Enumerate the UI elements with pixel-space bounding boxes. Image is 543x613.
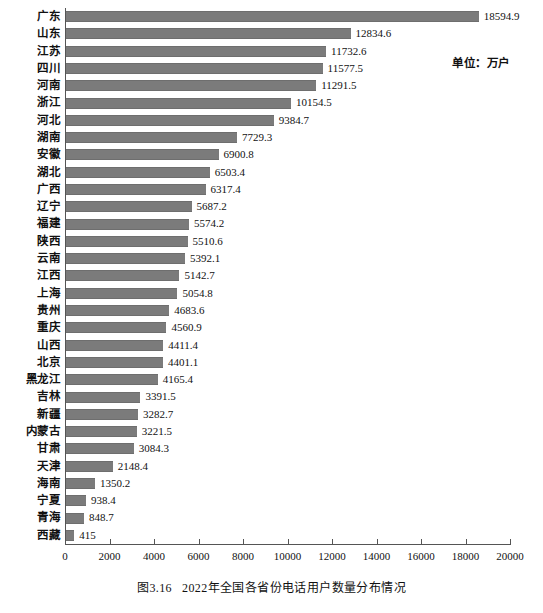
bar <box>65 374 158 385</box>
bar-value-label: 6503.4 <box>215 164 245 181</box>
bar-value-label: 5510.6 <box>193 233 223 250</box>
category-label: 河南 <box>37 77 60 94</box>
x-axis-tick <box>288 539 289 545</box>
category-label: 江苏 <box>37 43 60 60</box>
x-axis-tick-label: 12000 <box>318 549 346 563</box>
bar-value-label: 1350.2 <box>100 475 130 492</box>
bar <box>65 357 163 368</box>
category-label: 四川 <box>37 60 60 77</box>
category-label: 广东 <box>37 8 60 25</box>
bar <box>65 28 351 39</box>
category-label: 辽宁 <box>37 198 60 215</box>
bar <box>65 149 219 160</box>
category-label: 湖北 <box>37 164 60 181</box>
chart-row: 云南5392.1 <box>65 250 510 267</box>
bar <box>65 236 188 247</box>
x-axis-tick-label: 6000 <box>188 549 210 563</box>
category-label: 贵州 <box>37 302 60 319</box>
category-label: 安徽 <box>37 146 60 163</box>
chart-row: 上海5054.8 <box>65 285 510 302</box>
bar <box>65 253 185 264</box>
category-label: 新疆 <box>37 406 60 423</box>
bar <box>65 219 189 230</box>
bar-value-label: 3084.3 <box>139 440 169 457</box>
bar <box>65 201 192 212</box>
chart-row: 内蒙古3221.5 <box>65 423 510 440</box>
bar-value-label: 2148.4 <box>118 458 148 475</box>
x-axis-tick <box>332 539 333 545</box>
bar-value-label: 9384.7 <box>279 112 309 129</box>
category-label: 吉林 <box>37 388 60 405</box>
chart-row: 四川11577.5 <box>65 60 510 77</box>
category-label: 山西 <box>37 337 60 354</box>
bar <box>65 426 137 437</box>
bar <box>65 409 138 420</box>
x-axis-tick <box>243 539 244 545</box>
category-label: 内蒙古 <box>26 423 61 440</box>
category-label: 西藏 <box>37 527 60 544</box>
x-axis-tick <box>421 539 422 545</box>
bar <box>65 305 169 316</box>
bar <box>65 184 206 195</box>
bar <box>65 288 177 299</box>
bar-value-label: 5142.7 <box>184 267 214 284</box>
category-label: 宁夏 <box>37 492 60 509</box>
bar <box>65 461 113 472</box>
category-label: 甘肃 <box>37 440 60 457</box>
x-axis-tick-label: 2000 <box>99 549 121 563</box>
bar <box>65 340 163 351</box>
bar <box>65 478 95 489</box>
chart-row: 重庆4560.9 <box>65 319 510 336</box>
bar-value-label: 4165.4 <box>163 371 193 388</box>
x-axis-tick-label: 4000 <box>143 549 165 563</box>
bar-value-label: 5054.8 <box>182 285 212 302</box>
bar <box>65 11 479 22</box>
bar <box>65 63 323 74</box>
bar <box>65 495 86 506</box>
x-axis-tick-label: 14000 <box>363 549 391 563</box>
bar <box>65 443 134 454</box>
bar-value-label: 5392.1 <box>190 250 220 267</box>
category-label: 云南 <box>37 250 60 267</box>
category-label: 江西 <box>37 267 60 284</box>
chart-row: 天津2148.4 <box>65 458 510 475</box>
category-label: 海南 <box>37 475 60 492</box>
bar-value-label: 10154.5 <box>296 94 332 111</box>
bar <box>65 132 237 143</box>
caption-text: 2022年全国各省份电话用户数量分布情况 <box>182 581 406 595</box>
x-axis-tick <box>199 539 200 545</box>
chart-row: 安徽6900.8 <box>65 146 510 163</box>
chart-row: 江西5142.7 <box>65 267 510 284</box>
bar-value-label: 3221.5 <box>142 423 172 440</box>
x-axis-tick-label: 18000 <box>452 549 480 563</box>
category-label: 浙江 <box>37 94 60 111</box>
category-label: 河北 <box>37 112 60 129</box>
x-axis-tick <box>466 539 467 545</box>
category-label: 天津 <box>37 458 60 475</box>
bar-value-label: 4411.4 <box>168 337 198 354</box>
chart-row: 辽宁5687.2 <box>65 198 510 215</box>
chart-row: 陕西5510.6 <box>65 233 510 250</box>
figure-caption: 图3.162022年全国各省份电话用户数量分布情况 <box>0 578 543 596</box>
category-label: 黑龙江 <box>26 371 61 388</box>
category-label: 湖南 <box>37 129 60 146</box>
chart-row: 宁夏938.4 <box>65 492 510 509</box>
bar-value-label: 3391.5 <box>145 388 175 405</box>
bar <box>65 530 74 541</box>
bar-value-label: 3282.7 <box>143 406 173 423</box>
category-label: 福建 <box>37 215 60 232</box>
chart-row: 北京4401.1 <box>65 354 510 371</box>
chart-row: 山西4411.4 <box>65 337 510 354</box>
figure-container: 广东18594.9山东12834.6江苏11732.6四川11577.5河南11… <box>0 0 543 613</box>
chart-row: 浙江10154.5 <box>65 94 510 111</box>
chart-row: 河南11291.5 <box>65 77 510 94</box>
x-axis-tick <box>377 539 378 545</box>
category-label: 重庆 <box>37 319 60 336</box>
chart-row: 黑龙江4165.4 <box>65 371 510 388</box>
category-label: 山东 <box>37 25 60 42</box>
x-axis-tick-label: 20000 <box>496 549 524 563</box>
x-axis-tick <box>65 539 66 545</box>
unit-annotation: 单位：万户 <box>452 54 510 70</box>
chart-row: 吉林3391.5 <box>65 388 510 405</box>
category-label: 北京 <box>37 354 60 371</box>
